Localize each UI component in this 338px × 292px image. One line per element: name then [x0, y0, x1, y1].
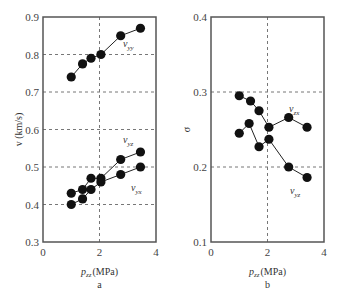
panel-b: 0.10.20.30.4024pzz(MPa)bσvzxvyz: [181, 11, 327, 290]
y-tick-label: 0.4: [25, 199, 39, 211]
x-tick-label: 4: [321, 246, 327, 258]
panel-a: 0.30.40.50.60.70.80.9024pzz(MPa)av (km/s…: [13, 11, 159, 290]
data-point: [284, 113, 293, 122]
x-tick-label: 4: [153, 246, 159, 258]
data-point: [136, 147, 145, 156]
series-v_yy: vyy: [67, 24, 145, 82]
panel-sublabel: a: [97, 279, 102, 290]
x-tick-label: 0: [208, 246, 214, 258]
y-axis-label: v (km/s): [13, 113, 25, 147]
data-point: [86, 185, 95, 194]
data-point: [254, 106, 263, 115]
x-tick-label: 2: [265, 246, 271, 258]
data-point: [302, 173, 311, 182]
y-tick-label: 0.9: [25, 11, 39, 23]
data-point: [86, 54, 95, 63]
x-tick-label: 0: [40, 246, 46, 258]
y-tick-label: 0.4: [193, 11, 207, 23]
data-point: [96, 177, 105, 186]
data-point: [96, 50, 105, 59]
y-tick-label: 0.1: [193, 236, 207, 248]
data-point: [86, 174, 95, 183]
series-label: vyy: [123, 38, 135, 52]
series-v_yx: vyx: [67, 162, 145, 209]
y-tick-label: 0.2: [193, 161, 207, 173]
y-tick-label: 0.3: [193, 86, 207, 98]
data-point: [136, 24, 145, 33]
data-point: [78, 194, 87, 203]
data-point: [284, 162, 293, 171]
data-point: [235, 91, 244, 100]
x-axis-label: pzz(MPa): [80, 266, 118, 279]
series-v_yz: vyz: [235, 119, 312, 199]
data-point: [264, 135, 273, 144]
data-point: [116, 155, 125, 164]
y-axis-label: σ: [181, 126, 192, 132]
figure: 0.30.40.50.60.70.80.9024pzz(MPa)av (km/s…: [0, 0, 338, 292]
data-point: [246, 96, 255, 105]
data-point: [235, 129, 244, 138]
data-point: [116, 170, 125, 179]
data-point: [264, 123, 273, 132]
x-axis-label: pzz(MPa): [248, 266, 286, 279]
data-point: [67, 189, 76, 198]
series-label: vyx: [131, 182, 143, 196]
data-point: [302, 123, 311, 132]
x-tick-label: 2: [97, 246, 103, 258]
data-point: [67, 200, 76, 209]
y-tick-label: 0.6: [25, 124, 39, 136]
data-point: [67, 72, 76, 81]
data-point: [254, 142, 263, 151]
data-point: [78, 59, 87, 68]
y-tick-label: 0.7: [25, 86, 39, 98]
data-point: [136, 162, 145, 171]
y-tick-label: 0.5: [25, 161, 39, 173]
series-label: vyz: [123, 134, 134, 148]
data-point: [245, 119, 254, 128]
series-label: vyz: [290, 185, 301, 199]
panel-sublabel: b: [265, 279, 270, 290]
y-tick-label: 0.8: [25, 49, 39, 61]
y-tick-label: 0.3: [25, 236, 39, 248]
data-point: [78, 185, 87, 194]
